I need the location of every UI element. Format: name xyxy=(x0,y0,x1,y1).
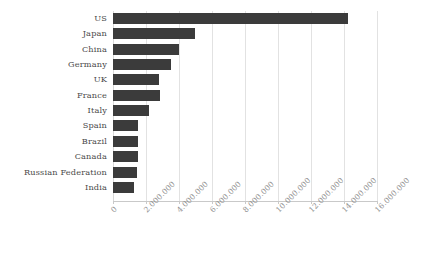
category-label-france: France xyxy=(0,90,107,101)
category-label-china: China xyxy=(0,44,107,55)
bar[interactable] xyxy=(113,167,137,178)
bar[interactable] xyxy=(113,136,138,147)
category-label-uk: UK xyxy=(0,74,107,85)
bar[interactable] xyxy=(113,105,149,116)
gridline xyxy=(344,11,345,201)
gridline xyxy=(311,11,312,201)
bar[interactable] xyxy=(113,90,160,101)
category-label-brazil: Brazil xyxy=(0,136,107,147)
bar[interactable] xyxy=(113,120,138,131)
bar[interactable] xyxy=(113,182,134,193)
bar[interactable] xyxy=(113,28,195,39)
x-axis-tick-labels: 02.000.0004.000.0006.000.0008.000.00010.… xyxy=(0,204,425,253)
bar[interactable] xyxy=(113,151,138,162)
bar[interactable] xyxy=(113,74,159,85)
gridline xyxy=(278,11,279,201)
category-label-us: US xyxy=(0,13,107,24)
bar[interactable] xyxy=(113,59,171,70)
gridline xyxy=(245,11,246,201)
category-label-japan: Japan xyxy=(0,28,107,39)
x-tick-label: 0 xyxy=(109,204,119,214)
category-axis-labels: USJapanChinaGermanyUKFranceItalySpainBra… xyxy=(0,11,107,201)
bar[interactable] xyxy=(113,13,348,24)
category-label-italy: Italy xyxy=(0,105,107,116)
category-label-canada: Canada xyxy=(0,151,107,162)
bar[interactable] xyxy=(113,44,179,55)
gridline xyxy=(212,11,213,201)
plot-area xyxy=(113,11,377,201)
gridline xyxy=(377,11,378,201)
gridline xyxy=(179,11,180,201)
bar-chart: USJapanChinaGermanyUKFranceItalySpainBra… xyxy=(0,0,425,253)
category-label-india: India xyxy=(0,182,107,193)
category-label-russian-federation: Russian Federation xyxy=(0,167,107,178)
category-label-germany: Germany xyxy=(0,59,107,70)
category-label-spain: Spain xyxy=(0,120,107,131)
